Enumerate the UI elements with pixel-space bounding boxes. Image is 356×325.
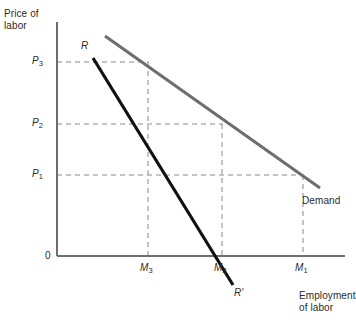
x-tick-label-m1: M1 xyxy=(295,262,308,277)
y-tick-label-p2-base: P xyxy=(32,117,39,128)
x-tick-label-m3: M3 xyxy=(140,262,153,277)
curve-label-demand: Demand xyxy=(302,195,340,207)
x-axis-title: Employment of labor xyxy=(299,290,356,314)
curve-label-r-prime-mark: ' xyxy=(241,287,243,298)
x-tick-label-m3-sub: 3 xyxy=(148,266,152,275)
y-tick-label-p1: P1 xyxy=(32,168,43,183)
y-tick-label-p1-base: P xyxy=(32,168,39,179)
curve-label-r-prime: R' xyxy=(234,287,243,299)
y-tick-label-p1-sub: 1 xyxy=(39,172,43,181)
x-tick-label-m1-sub: 1 xyxy=(303,266,307,275)
demand-curve xyxy=(105,36,320,188)
supply-curve-rr-prime xyxy=(93,58,233,285)
y-tick-label-p3: P3 xyxy=(32,55,43,70)
y-tick-label-p3-base: P xyxy=(32,55,39,66)
y-tick-label-p2: P2 xyxy=(32,117,43,132)
y-tick-label-p2-sub: 2 xyxy=(39,121,43,130)
y-axis-title: Price of labor xyxy=(4,8,39,32)
x-tick-label-m2: M2 xyxy=(214,262,227,277)
x-tick-label-m2-sub: 2 xyxy=(222,266,226,275)
y-tick-label-p3-sub: 3 xyxy=(39,59,43,68)
curve-label-r: R xyxy=(81,40,88,52)
origin-label: 0 xyxy=(45,250,51,262)
axes xyxy=(57,22,345,256)
